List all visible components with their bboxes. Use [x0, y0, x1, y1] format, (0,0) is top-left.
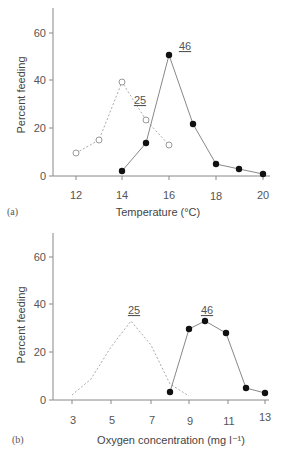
x-tick-label: 9 [187, 415, 193, 427]
x-tick-label: 3 [70, 414, 76, 426]
x-tick-label: 14 [116, 189, 128, 201]
panel-a: 0 20 40 60 12 14 16 18 20 Percent feedin… [7, 8, 270, 218]
x-tick-label: 5 [109, 414, 115, 426]
series-label-46-b: 46 [201, 304, 213, 316]
x-tick-label: 13 [259, 411, 271, 423]
x-ticks-a: 12 14 16 18 20 [70, 176, 269, 202]
y-tick-label: 20 [34, 346, 46, 358]
series-25-b: 25 [72, 304, 189, 396]
x-tick-label: 11 [223, 415, 234, 427]
x-tick-label: 18 [210, 190, 222, 202]
y-tick-label: 0 [40, 394, 46, 406]
series-46-a: 46 [119, 40, 266, 177]
x-tick-label: 12 [70, 189, 82, 201]
y-axis-title-b: Percent feeding [15, 286, 27, 363]
y-axis-title-a: Percent feeding [15, 56, 27, 133]
series-25-a: 25 [73, 79, 172, 156]
x-tick-label: 7 [149, 414, 155, 426]
figure: 0 20 40 60 12 14 16 18 20 Percent feedin… [0, 0, 286, 456]
series-label-25-b: 25 [128, 304, 140, 316]
y-ticks-a: 0 20 40 60 [34, 27, 53, 182]
y-tick-label: 0 [40, 170, 46, 182]
panel-label-a: (a) [7, 206, 18, 218]
y-ticks-b: 0 20 40 60 [34, 251, 53, 406]
y-tick-label: 60 [34, 251, 46, 263]
series-label-46-a: 46 [179, 40, 191, 52]
y-tick-label: 20 [34, 122, 46, 134]
x-tick-label: 16 [163, 189, 175, 201]
x-axis-title-a: Temperature (°C) [116, 206, 200, 218]
x-tick-label: 20 [257, 189, 269, 201]
series-label-25-a: 25 [134, 94, 146, 106]
panel-b: 0 20 40 60 3 5 7 9 11 13 Percent feeding… [12, 233, 271, 446]
y-tick-label: 40 [34, 74, 46, 86]
x-axis-title-b: Oxygen concentration (mg l⁻¹) [97, 434, 245, 446]
x-ticks-b: 3 5 7 9 11 13 [70, 400, 271, 427]
y-tick-label: 40 [34, 298, 46, 310]
y-tick-label: 60 [34, 27, 46, 39]
panel-label-b: (b) [12, 434, 24, 446]
series-46-b: 46 [167, 304, 268, 396]
